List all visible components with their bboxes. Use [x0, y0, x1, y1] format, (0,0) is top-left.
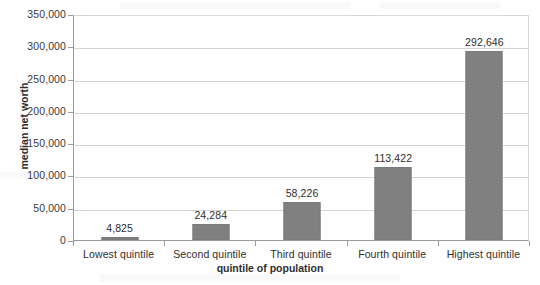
chart-figure: median net worth 050,000100,000150,00020…	[0, 0, 540, 285]
x-axis-category-label: Third quintile	[255, 248, 346, 260]
bar-slot: 292,646	[439, 14, 530, 240]
bar-value-label: 58,226	[286, 187, 319, 199]
scan-artifact	[120, 2, 350, 9]
y-axis-tick-label: 0	[0, 234, 66, 246]
bar-value-label: 24,284	[194, 209, 227, 221]
y-axis-tick-label: 350,000	[0, 8, 66, 20]
y-axis-tick-label: 250,000	[0, 73, 66, 85]
scan-artifact	[100, 274, 400, 282]
plot-area: 4,82524,28458,226113,422292,646	[73, 15, 529, 241]
x-axis-tick-mark	[529, 241, 530, 246]
bar-value-label: 113,422	[374, 152, 412, 164]
x-axis-category-label: Second quintile	[164, 248, 255, 260]
x-axis-tick-mark	[347, 241, 348, 246]
scan-artifact	[380, 3, 500, 9]
bar[interactable]	[101, 237, 138, 240]
bar-slot: 113,422	[348, 14, 439, 240]
x-axis-tick-mark	[73, 241, 74, 246]
x-axis-category-label: Lowest quintile	[73, 248, 164, 260]
x-axis-tick-mark	[255, 241, 256, 246]
bar[interactable]	[466, 51, 503, 240]
y-axis-tick-label: 50,000	[0, 202, 66, 214]
x-axis-category-label: Fourth quintile	[347, 248, 438, 260]
bar-value-label: 4,825	[106, 222, 133, 234]
bar-slot: 24,284	[165, 14, 256, 240]
y-axis-tick-label: 150,000	[0, 137, 66, 149]
bar-slot: 58,226	[256, 14, 347, 240]
y-axis-tick-label: 200,000	[0, 105, 66, 117]
x-axis-title: quintile of population	[0, 262, 540, 274]
bar[interactable]	[375, 167, 412, 240]
x-axis-tick-mark	[438, 241, 439, 246]
bar[interactable]	[192, 224, 229, 240]
bar-value-label: 292,646	[465, 36, 504, 48]
bar-slot: 4,825	[74, 14, 165, 240]
x-axis-category-label: Highest quintile	[438, 248, 529, 260]
bar[interactable]	[283, 202, 320, 240]
x-axis-tick-mark	[164, 241, 165, 246]
y-axis-tick-label: 300,000	[0, 40, 66, 52]
y-axis-tick-label: 100,000	[0, 169, 66, 181]
